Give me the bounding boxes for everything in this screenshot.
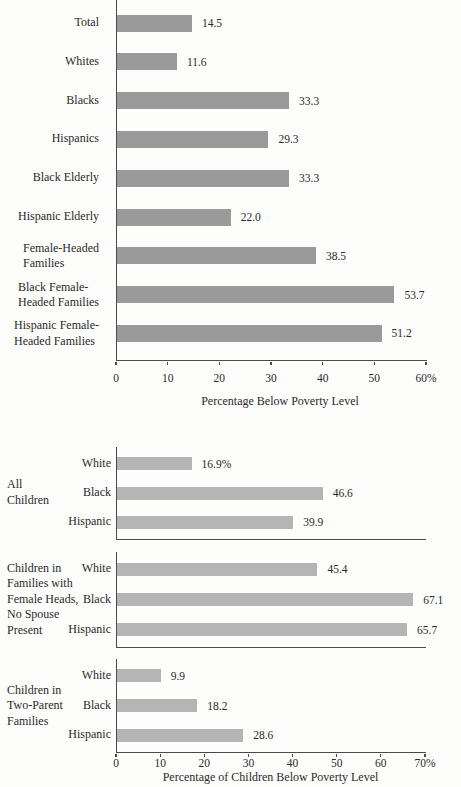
tick-label: 50 [331, 757, 343, 769]
category-label-text: Black [83, 698, 111, 713]
category-label: Hispanic Female- Headed Families [0, 318, 99, 348]
bar [117, 516, 293, 529]
chart2-group-plot-area: 45.467.165.7 [116, 552, 426, 648]
chart2-group-plot-area: 16.9%46.639.9 [116, 447, 426, 540]
tick-mark [425, 362, 426, 366]
category-label: Black Elderly [0, 171, 99, 186]
value-label: 16.9% [202, 458, 232, 470]
tick-mark [219, 362, 220, 366]
bar [117, 487, 323, 500]
bar [117, 563, 317, 576]
bar [117, 699, 197, 712]
chart1-plot-area: 14.511.633.329.333.322.038.553.751.2 [116, 0, 427, 361]
category-label: Female-Headed Families [0, 241, 99, 271]
category-label: Black [0, 592, 111, 607]
tick-label: 10 [162, 372, 174, 384]
value-label: 9.9 [171, 670, 185, 682]
category-label-text: Black Elderly [33, 171, 99, 186]
tick-label: 0 [113, 372, 119, 384]
value-label: 53.7 [404, 289, 424, 301]
chart1-x-axis-title: Percentage Below Poverty Level [125, 394, 435, 409]
tick-mark [270, 362, 271, 366]
bar [117, 729, 243, 742]
category-label: Hispanic [0, 515, 111, 530]
category-label-text: Hispanic [68, 622, 111, 637]
chart2-group-plot-area: 9.918.228.6 [116, 659, 426, 753]
value-label: 14.5 [202, 17, 222, 29]
tick-label: 30 [265, 372, 277, 384]
category-label: Black [0, 698, 111, 713]
category-label-text: White [82, 668, 111, 683]
category-label: Hispanic [0, 728, 111, 743]
tick-label: 40 [317, 372, 329, 384]
value-label: 22.0 [241, 211, 261, 223]
category-label: Black [0, 485, 111, 500]
bar [117, 92, 289, 109]
category-label-text: Female-Headed Families [23, 241, 99, 271]
category-label-text: Hispanic Female- Headed Families [14, 318, 99, 348]
category-label-text: Hispanic [68, 728, 111, 743]
category-label-text: Black [83, 592, 111, 607]
bar [117, 131, 268, 148]
value-label: 29.3 [278, 133, 298, 145]
category-label: Total [0, 15, 99, 30]
bar [117, 286, 394, 303]
category-label-text: Total [75, 15, 100, 30]
tick-label: 50 [369, 372, 381, 384]
tick-mark [374, 362, 375, 366]
bar [117, 209, 231, 226]
value-label: 39.9 [303, 516, 323, 528]
bar [117, 247, 316, 264]
category-label: White [0, 561, 111, 576]
tick-mark [167, 362, 168, 366]
bar [117, 457, 192, 470]
tick-mark [322, 362, 323, 366]
category-label: Black Female- Headed Families [0, 279, 99, 309]
bar [117, 669, 161, 682]
category-label-text: Blacks [66, 93, 99, 108]
value-label: 38.5 [326, 250, 346, 262]
value-label: 18.2 [207, 700, 227, 712]
tick-label: 40 [287, 757, 299, 769]
category-label: Blacks [0, 93, 99, 108]
category-label-text: White [82, 561, 111, 576]
tick-mark [115, 362, 116, 366]
category-label-text: White [82, 456, 111, 471]
category-label-text: Whites [65, 54, 99, 69]
bar [117, 325, 382, 342]
category-label: White [0, 456, 111, 471]
tick-label: 60 [375, 757, 387, 769]
category-label-text: Hispanics [52, 132, 99, 147]
category-label: Hispanic Elderly [0, 209, 99, 224]
bar [117, 170, 289, 187]
value-label: 45.4 [327, 563, 347, 575]
value-label: 33.3 [299, 95, 319, 107]
tick-label: 20 [199, 757, 211, 769]
tick-label: 0 [113, 757, 119, 769]
bar [117, 53, 177, 70]
category-label-text: Black [83, 485, 111, 500]
figure-page: 14.511.633.329.333.322.038.553.751.2 Per… [0, 0, 461, 787]
tick-label: 70% [414, 757, 435, 769]
value-label: 46.6 [333, 487, 353, 499]
value-label: 67.1 [423, 594, 443, 606]
tick-label: 30 [243, 757, 255, 769]
tick-label: 60% [415, 372, 436, 384]
category-label: Hispanic [0, 622, 111, 637]
category-label-text: Hispanic Elderly [18, 209, 99, 224]
category-label: White [0, 668, 111, 683]
bar [117, 15, 192, 32]
tick-label: 10 [154, 757, 166, 769]
category-label: Hispanics [0, 132, 99, 147]
category-label-text: Black Female- Headed Families [18, 279, 99, 309]
category-label-text: Hispanic [68, 515, 111, 530]
value-label: 33.3 [299, 172, 319, 184]
bar [117, 593, 413, 606]
value-label: 28.6 [253, 729, 273, 741]
value-label: 11.6 [187, 56, 207, 68]
bar [117, 623, 407, 636]
tick-label: 20 [214, 372, 226, 384]
value-label: 51.2 [392, 327, 412, 339]
value-label: 65.7 [417, 624, 437, 636]
chart2-x-axis-title: Percentage of Children Below Poverty Lev… [116, 770, 425, 785]
